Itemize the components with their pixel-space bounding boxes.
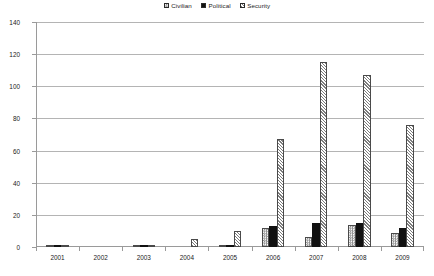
legend-swatch-civilian-icon xyxy=(164,3,169,8)
bar-security-2008 xyxy=(363,75,370,247)
bar-civilian-2009 xyxy=(391,233,398,247)
bar-civilian-2005 xyxy=(219,245,226,247)
bar-security-2001 xyxy=(61,245,68,247)
legend-label: Civilian xyxy=(171,2,192,9)
bar-political-2006 xyxy=(269,226,276,247)
bar-civilian-2001 xyxy=(46,245,53,247)
y-tick-label: 0 xyxy=(0,244,20,251)
bar-political-2009 xyxy=(399,228,406,247)
x-tick-mark xyxy=(338,247,339,251)
x-tick-mark xyxy=(122,247,123,251)
bar-civilian-2006 xyxy=(262,228,269,247)
x-tick-label: 2002 xyxy=(94,254,108,261)
y-tick-label: 40 xyxy=(0,179,20,186)
bar-security-2004 xyxy=(191,239,198,247)
x-tick-mark xyxy=(381,247,382,251)
x-tick-label: 2008 xyxy=(352,254,366,261)
y-tick-label: 60 xyxy=(0,147,20,154)
legend-swatch-security-icon xyxy=(240,3,245,8)
x-tick-mark xyxy=(36,247,37,251)
bars-layer xyxy=(36,22,424,247)
legend-label: Political xyxy=(208,2,230,9)
bar-security-2003 xyxy=(148,245,155,247)
bar-security-2007 xyxy=(320,62,327,247)
bar-political-2005 xyxy=(226,245,233,247)
x-tick-mark xyxy=(208,247,209,251)
bar-political-2008 xyxy=(356,223,363,247)
x-tick-label: 2006 xyxy=(266,254,280,261)
bar-political-2003 xyxy=(140,245,147,247)
legend-entry-security: Security xyxy=(240,2,271,9)
y-tick-label: 20 xyxy=(0,211,20,218)
bar-security-2006 xyxy=(277,139,284,247)
chart-legend: CivilianPoliticalSecurity xyxy=(0,2,434,9)
y-tick-label: 140 xyxy=(0,19,20,26)
bar-civilian-2003 xyxy=(133,245,140,247)
legend-entry-civilian: Civilian xyxy=(164,2,192,9)
bar-civilian-2007 xyxy=(305,237,312,247)
x-tick-label: 2009 xyxy=(395,254,409,261)
legend-entry-political: Political xyxy=(201,2,231,9)
x-axis-tick-marks xyxy=(36,247,424,251)
bar-security-2009 xyxy=(406,125,413,247)
x-tick-label: 2001 xyxy=(50,254,64,261)
x-tick-mark xyxy=(165,247,166,251)
x-tick-label: 2007 xyxy=(309,254,323,261)
y-tick-label: 80 xyxy=(0,115,20,122)
x-tick-mark xyxy=(252,247,253,251)
y-tick-label: 120 xyxy=(0,51,20,58)
x-tick-mark xyxy=(423,247,424,251)
bar-security-2005 xyxy=(234,231,241,247)
x-axis-labels: 200120022003200420052006200720082009 xyxy=(36,254,424,268)
x-tick-label: 2004 xyxy=(180,254,194,261)
bar-political-2007 xyxy=(312,223,319,247)
y-tick-label: 100 xyxy=(0,83,20,90)
bar-political-2001 xyxy=(54,245,61,247)
bar-civilian-2008 xyxy=(348,225,355,248)
x-tick-mark xyxy=(79,247,80,251)
bar-chart: CivilianPoliticalSecurity 02040608010012… xyxy=(0,0,434,276)
x-tick-mark xyxy=(295,247,296,251)
legend-swatch-political-icon xyxy=(201,3,206,8)
x-tick-label: 2003 xyxy=(137,254,151,261)
x-tick-label: 2005 xyxy=(223,254,237,261)
legend-label: Security xyxy=(247,2,270,9)
